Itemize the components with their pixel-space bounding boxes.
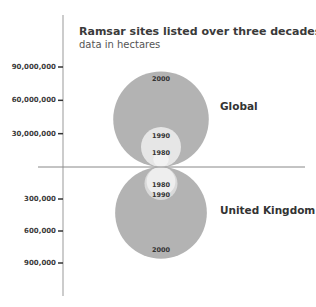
year-label-global-1980: 1980 <box>152 149 171 157</box>
year-label-uk-1990: 1990 <box>152 191 171 199</box>
lower-tick-label: 300,000 <box>24 195 56 203</box>
year-label-uk-2000: 2000 <box>152 246 171 254</box>
year-label-global-2000: 2000 <box>152 75 171 83</box>
chart-subtitle: data in hectares <box>79 39 160 50</box>
lower-tick-label: 600,000 <box>24 227 56 235</box>
year-label-uk-1980: 1980 <box>152 181 171 189</box>
year-label-global-1990: 1990 <box>152 132 171 140</box>
series-label-uk: United Kingdom <box>220 204 315 216</box>
upper-tick-label: 60,000,000 <box>12 96 56 104</box>
series-label-global: Global <box>220 100 258 112</box>
upper-tick-label: 90,000,000 <box>12 63 56 71</box>
ramsar-chart: Ramsar sites listed over three decades d… <box>0 0 316 307</box>
upper-tick-label: 30,000,000 <box>12 130 56 138</box>
lower-tick-label: 900,000 <box>24 259 56 267</box>
chart-title: Ramsar sites listed over three decades <box>79 25 316 38</box>
